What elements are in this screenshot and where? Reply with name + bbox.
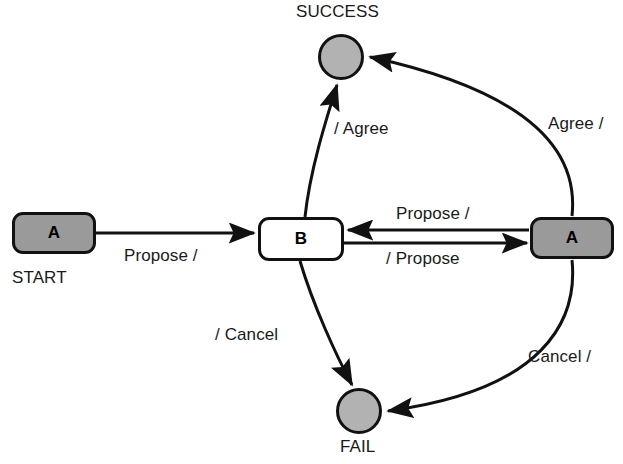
edge-label-b-to-a: / Propose [386,249,460,269]
edge-label-a-to-fail: Cancel / [528,347,591,367]
state-node-b[interactable]: B [258,217,344,261]
state-node-label: A [566,228,578,248]
edge-a-to-success [370,57,573,216]
state-node-label: A [48,223,60,243]
state-node-start-a[interactable]: A [12,212,96,254]
edge-label-a-to-success: Agree / [548,114,604,134]
state-node-label: B [295,229,307,249]
edge-label-start-to-b: Propose / [124,246,198,266]
edge-a-to-fail [388,260,573,411]
state-caption-success: SUCCESS [296,2,379,22]
state-diagram-canvas: A START B A SUCCESS FAIL Propose / / Agr… [0,0,623,464]
edge-label-b-to-success: / Agree [334,119,389,139]
state-caption-fail: FAIL [340,437,375,457]
edge-label-b-to-fail: / Cancel [215,325,278,345]
edge-label-a-to-b: Propose / [396,204,470,224]
state-caption-start: START [12,268,67,288]
edge-b-to-fail [300,261,352,385]
edge-b-to-success [305,85,337,217]
state-node-right-a[interactable]: A [530,217,614,259]
state-node-fail[interactable] [336,388,382,434]
state-node-success[interactable] [318,34,364,80]
